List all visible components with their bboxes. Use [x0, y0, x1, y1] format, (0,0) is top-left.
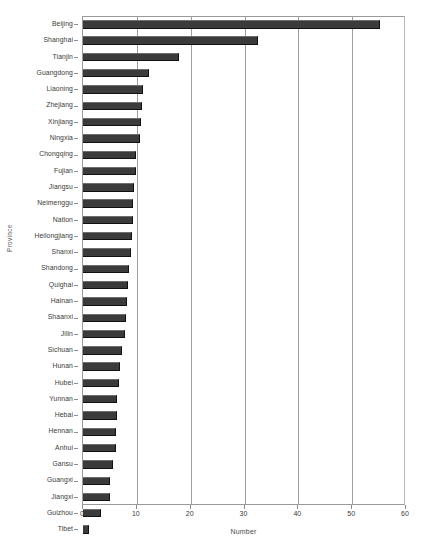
bar	[83, 102, 142, 110]
y-tick	[74, 366, 78, 367]
x-tick	[190, 505, 191, 509]
category-label: Gansu	[0, 456, 78, 472]
bar	[83, 151, 136, 159]
bar	[83, 199, 133, 207]
category-label: Tibet	[0, 521, 78, 537]
y-tick	[74, 40, 78, 41]
x-axis-title: Number	[82, 528, 405, 535]
bar-row	[83, 392, 404, 408]
y-tick	[74, 236, 78, 237]
bar	[83, 395, 117, 403]
bar-row	[83, 310, 404, 326]
x-tick-label: 30	[240, 510, 248, 517]
y-tick	[74, 415, 78, 416]
bar	[83, 20, 380, 28]
y-tick	[74, 220, 78, 221]
bar	[83, 444, 116, 452]
y-tick	[74, 106, 78, 107]
category-label: Jiangsu	[0, 179, 78, 195]
bar	[83, 232, 132, 240]
bar-row	[83, 147, 404, 163]
category-label: Guizhou	[0, 505, 78, 521]
category-label: Shanxi	[0, 244, 78, 260]
bar	[83, 85, 143, 93]
category-label: Chongqing	[0, 146, 78, 162]
bar-row	[83, 66, 404, 82]
category-label: Fujian	[0, 163, 78, 179]
bar	[83, 411, 117, 419]
x-tick-label: 10	[132, 510, 140, 517]
category-axis-labels: BeijingShanghaiTianjinGuangdongLiaoningZ…	[0, 16, 78, 538]
bar	[83, 428, 116, 436]
category-label: Hubei	[0, 375, 78, 391]
y-tick	[74, 334, 78, 335]
category-label: Jilin	[0, 326, 78, 342]
category-label: Yunnan	[0, 391, 78, 407]
category-label: Hennan	[0, 423, 78, 439]
y-tick	[74, 301, 78, 302]
category-label: Jiangxi	[0, 489, 78, 505]
category-label: Zhejiang	[0, 97, 78, 113]
x-tick	[405, 505, 406, 509]
category-label: Shaanxi	[0, 309, 78, 325]
bar-row	[83, 261, 404, 277]
category-label: Hainan	[0, 293, 78, 309]
bar	[83, 216, 133, 224]
y-tick	[74, 57, 78, 58]
y-tick	[74, 497, 78, 498]
category-label: Shandong	[0, 260, 78, 276]
bar	[83, 265, 129, 273]
bar-row	[83, 50, 404, 66]
x-tick	[244, 505, 245, 509]
x-tick-label: 50	[347, 510, 355, 517]
y-tick	[74, 138, 78, 139]
category-label: Quighai	[0, 277, 78, 293]
x-tick-label: 40	[293, 510, 301, 517]
x-tick-label: 0	[80, 510, 84, 517]
bar	[83, 330, 125, 338]
bar-series	[83, 17, 404, 504]
bar-row	[83, 441, 404, 457]
bar-chart: Province BeijingShanghaiTianjinGuangdong…	[0, 0, 426, 560]
category-label: Beijing	[0, 16, 78, 32]
category-label: Heilongjiang	[0, 228, 78, 244]
bar	[83, 53, 179, 61]
bar	[83, 281, 128, 289]
x-tick	[351, 505, 352, 509]
category-label: Shanghai	[0, 32, 78, 48]
category-label: Guangxi	[0, 472, 78, 488]
bar	[83, 493, 110, 501]
y-tick	[74, 171, 78, 172]
y-tick	[74, 187, 78, 188]
bar	[83, 69, 149, 77]
y-tick	[74, 89, 78, 90]
category-label: Hunan	[0, 358, 78, 374]
bar	[83, 509, 101, 517]
y-tick	[74, 464, 78, 465]
bar	[83, 346, 122, 354]
x-tick	[82, 505, 83, 509]
bar-row	[83, 98, 404, 114]
bar-row	[83, 164, 404, 180]
bar-row	[83, 115, 404, 131]
bar-row	[83, 457, 404, 473]
bar	[83, 362, 120, 370]
bar-row	[83, 213, 404, 229]
x-tick	[136, 505, 137, 509]
bar-row	[83, 82, 404, 98]
bar	[83, 118, 141, 126]
bar	[83, 167, 136, 175]
y-tick	[74, 252, 78, 253]
y-tick	[74, 513, 78, 514]
bar-row	[83, 278, 404, 294]
y-tick	[74, 122, 78, 123]
category-label: Anhui	[0, 440, 78, 456]
bar-row	[83, 376, 404, 392]
bar	[83, 314, 126, 322]
category-label: Guangdong	[0, 65, 78, 81]
bar-row	[83, 17, 404, 33]
bar-row	[83, 196, 404, 212]
x-tick-label: 60	[401, 510, 409, 517]
bar	[83, 477, 110, 485]
bar-row	[83, 245, 404, 261]
